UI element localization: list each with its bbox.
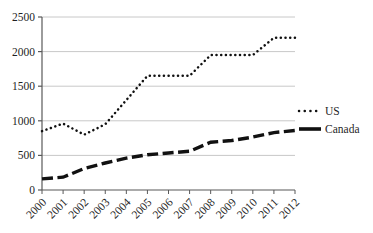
y-axis-label: 2000 xyxy=(12,46,35,58)
svg-text:2000: 2000 xyxy=(24,196,49,221)
x-axis-label: 2003 xyxy=(87,196,112,221)
svg-text:2001: 2001 xyxy=(45,196,70,221)
svg-text:2006: 2006 xyxy=(150,196,175,221)
svg-text:2012: 2012 xyxy=(277,196,302,221)
chart-figure: 0500100015002000250020002001200220032004… xyxy=(0,0,373,233)
x-axis-label: 2010 xyxy=(234,196,259,221)
x-axis-label: 2002 xyxy=(66,196,91,221)
svg-text:2010: 2010 xyxy=(234,196,259,221)
y-axis-label: 0 xyxy=(29,184,35,196)
line-chart: 0500100015002000250020002001200220032004… xyxy=(0,0,373,233)
canada-series-line xyxy=(42,130,295,178)
x-axis-label: 2009 xyxy=(213,196,238,221)
x-axis-label: 2011 xyxy=(256,196,281,221)
y-axis-label: 500 xyxy=(18,149,36,161)
x-axis-label: 2005 xyxy=(129,196,154,221)
svg-text:2009: 2009 xyxy=(213,196,238,221)
y-axis-label: 2500 xyxy=(12,11,35,23)
x-axis-label: 2004 xyxy=(108,196,133,221)
y-axis-label: 1500 xyxy=(12,80,35,92)
svg-text:2004: 2004 xyxy=(108,196,133,221)
svg-text:2002: 2002 xyxy=(66,196,91,221)
x-axis-label: 2000 xyxy=(24,196,49,221)
svg-text:2011: 2011 xyxy=(256,196,281,221)
svg-text:2008: 2008 xyxy=(192,196,217,221)
legend-label-canada: Canada xyxy=(325,123,359,135)
y-axis-label: 1000 xyxy=(12,115,35,127)
x-axis-label: 2006 xyxy=(150,196,175,221)
x-axis-label: 2012 xyxy=(277,196,302,221)
svg-text:2005: 2005 xyxy=(129,196,154,221)
x-axis-label: 2007 xyxy=(171,196,196,221)
x-axis-label: 2001 xyxy=(45,196,70,221)
legend-label-us: US xyxy=(325,105,340,117)
svg-text:2003: 2003 xyxy=(87,196,112,221)
svg-text:2007: 2007 xyxy=(171,196,196,221)
x-axis-label: 2008 xyxy=(192,196,217,221)
